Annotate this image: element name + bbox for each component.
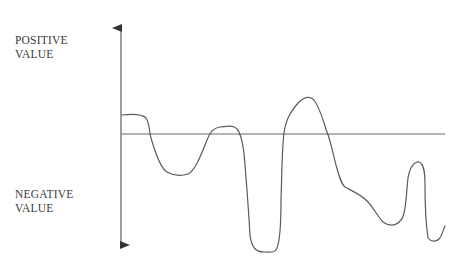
waveform-curve	[122, 97, 445, 252]
waveform-diagram	[0, 0, 461, 267]
